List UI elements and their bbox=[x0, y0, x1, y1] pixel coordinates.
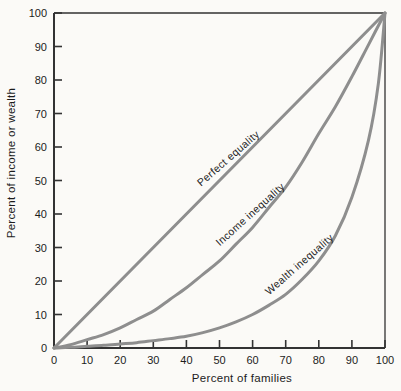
x-axis-title: Percent of families bbox=[192, 372, 292, 384]
y-tick-label: 0 bbox=[41, 342, 47, 354]
lorenz-curve-figure: 0102030405060708090100010203040506070809… bbox=[0, 0, 401, 391]
y-tick-label: 80 bbox=[35, 74, 47, 86]
y-tick-label: 20 bbox=[35, 275, 47, 287]
x-tick-label: 10 bbox=[81, 354, 93, 366]
y-tick-label: 100 bbox=[29, 7, 47, 19]
y-tick-label: 40 bbox=[35, 208, 47, 220]
y-tick-label: 60 bbox=[35, 141, 47, 153]
x-tick-label: 0 bbox=[51, 354, 57, 366]
x-tick-label: 50 bbox=[213, 354, 225, 366]
x-tick-label: 30 bbox=[147, 354, 159, 366]
lorenz-chart-canvas: 0102030405060708090100010203040506070809… bbox=[0, 0, 401, 391]
x-tick-label: 80 bbox=[313, 354, 325, 366]
x-tick-label: 90 bbox=[346, 354, 358, 366]
y-tick-label: 50 bbox=[35, 175, 47, 187]
x-tick-label: 100 bbox=[376, 354, 394, 366]
y-tick-label: 30 bbox=[35, 242, 47, 254]
x-tick-label: 70 bbox=[280, 354, 292, 366]
y-tick-label: 90 bbox=[35, 41, 47, 53]
y-axis-title: Percent of income or wealth bbox=[5, 88, 17, 239]
y-tick-label: 70 bbox=[35, 108, 47, 120]
x-tick-label: 60 bbox=[246, 354, 258, 366]
curve-perfect-equality bbox=[54, 13, 385, 348]
x-tick-label: 20 bbox=[114, 354, 126, 366]
lorenz-curves bbox=[54, 13, 385, 348]
x-tick-label: 40 bbox=[180, 354, 192, 366]
y-tick-label: 10 bbox=[35, 309, 47, 321]
